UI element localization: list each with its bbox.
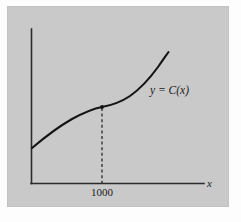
figure-container: y = C(x) 1000 x	[0, 0, 241, 222]
figure-panel-background	[8, 7, 228, 206]
